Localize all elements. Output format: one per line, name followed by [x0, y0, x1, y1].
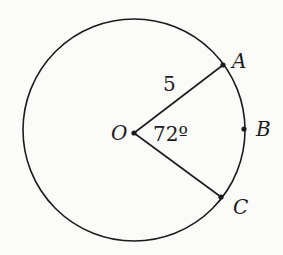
point-B	[241, 126, 246, 131]
label-C: C	[233, 195, 248, 219]
point-C	[218, 194, 223, 199]
label-B: B	[255, 117, 271, 141]
circle	[23, 19, 245, 241]
label-O: O	[111, 121, 127, 145]
radius-label: 5	[163, 72, 176, 96]
circle-diagram: O A B C 5 72º	[0, 0, 283, 255]
point-O	[131, 130, 136, 135]
angle-label: 72º	[153, 122, 188, 146]
point-A	[220, 62, 225, 67]
label-A: A	[230, 49, 246, 73]
